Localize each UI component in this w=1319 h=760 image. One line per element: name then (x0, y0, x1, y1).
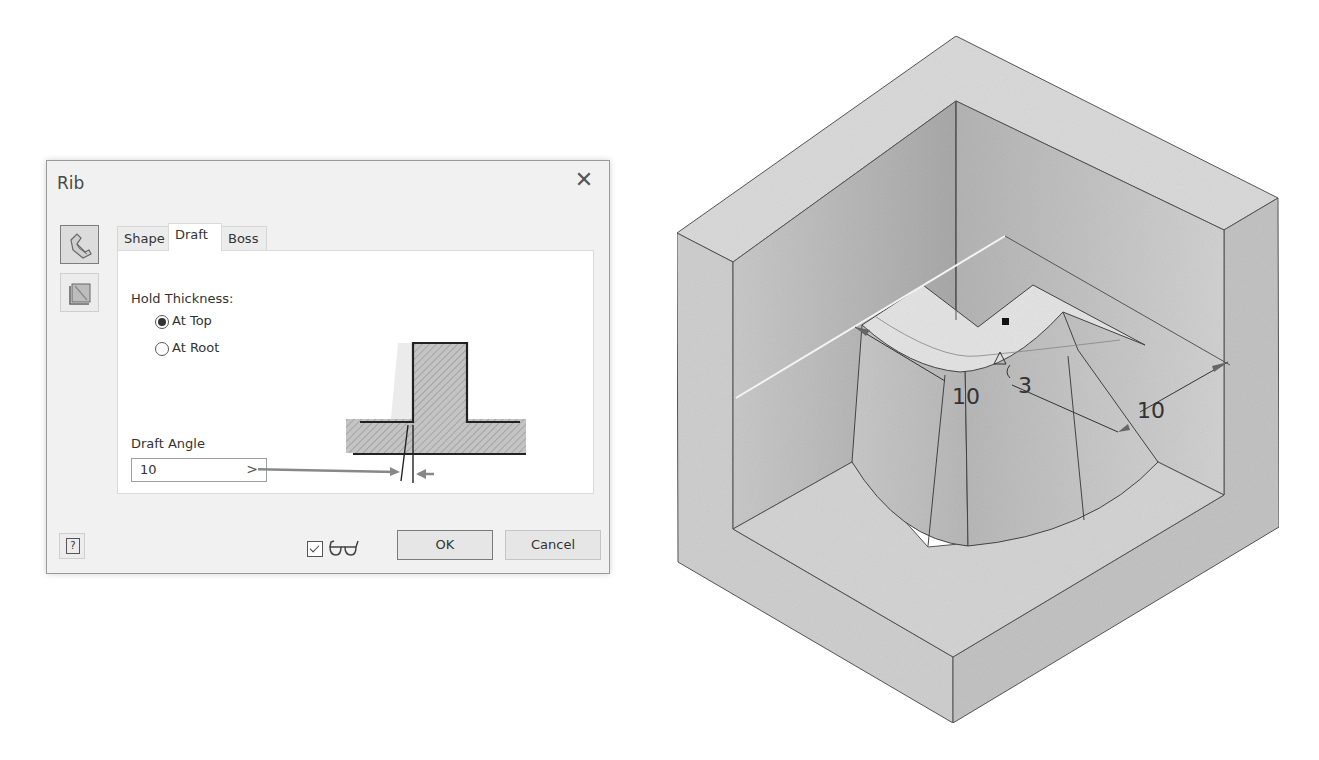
right-dimension-label[interactable]: 10 (1137, 398, 1165, 423)
model-viewport[interactable]: 10 3 10 (0, 0, 1319, 760)
thickness-dimension-label[interactable]: 3 (1018, 373, 1032, 398)
left-dimension-label[interactable]: 10 (952, 384, 980, 409)
tab-draft[interactable]: Draft (168, 223, 222, 251)
sketch-point[interactable] (1002, 318, 1009, 325)
